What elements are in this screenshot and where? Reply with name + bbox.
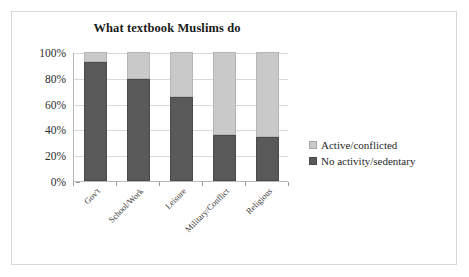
chart-figure: What textbook Muslims do 0%20%40%60%80%1…	[11, 11, 457, 265]
bar-segment-active-conflicted[interactable]	[127, 52, 150, 79]
x-tick-label: Gov't	[10, 186, 102, 277]
y-tick-label: 40%	[45, 124, 66, 136]
chart-legend: Active/conflictedNo activity/sedentary	[309, 139, 454, 171]
bar-group[interactable]	[256, 53, 279, 181]
x-tick-label: Military/Conflict	[139, 186, 231, 277]
y-tick-label: 100%	[39, 47, 66, 59]
bar-group[interactable]	[84, 53, 107, 181]
light-gray-swatch-icon	[309, 141, 317, 149]
legend-item[interactable]: No activity/sedentary	[309, 155, 454, 167]
bar-segment-no-activity-sedentary[interactable]	[213, 135, 236, 181]
x-tick-label: Religious	[182, 186, 274, 277]
bar-group[interactable]	[170, 53, 193, 181]
y-tick-label: 20%	[45, 150, 66, 162]
bar-segment-no-activity-sedentary[interactable]	[256, 137, 279, 181]
x-tick-label: School/Work	[53, 186, 145, 277]
bar-segment-active-conflicted[interactable]	[256, 52, 279, 137]
y-tick-label: 0%	[51, 176, 66, 188]
legend-item[interactable]: Active/conflicted	[309, 139, 454, 151]
dark-gray-swatch-icon	[309, 157, 317, 165]
x-axis-labels: Gov'tSchool/WorkLeisureMilitary/Conflict…	[73, 186, 303, 246]
bar-segment-no-activity-sedentary[interactable]	[127, 79, 150, 181]
y-tick-label: 80%	[45, 73, 66, 85]
x-tick-label: Leisure	[96, 186, 188, 277]
bar-segment-active-conflicted[interactable]	[170, 52, 193, 97]
bar-segment-active-conflicted[interactable]	[84, 52, 107, 62]
y-axis: 0%20%40%60%80%100%	[20, 53, 66, 182]
legend-label: Active/conflicted	[321, 139, 397, 151]
plot-area	[73, 53, 288, 182]
bar-segment-no-activity-sedentary[interactable]	[170, 97, 193, 181]
chart-title: What textbook Muslims do	[12, 21, 322, 36]
bar-segment-active-conflicted[interactable]	[213, 52, 236, 135]
bar-segment-no-activity-sedentary[interactable]	[84, 62, 107, 181]
y-tick-label: 60%	[45, 99, 66, 111]
bar-group[interactable]	[127, 53, 150, 181]
legend-label: No activity/sedentary	[321, 155, 415, 167]
bar-group[interactable]	[213, 53, 236, 181]
